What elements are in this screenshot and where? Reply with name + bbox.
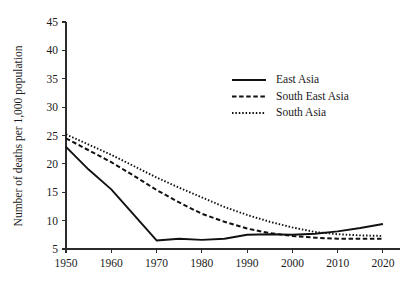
- y-tick-label: 10: [47, 215, 59, 227]
- y-tick-label: 5: [52, 243, 58, 255]
- x-tick-label: 1960: [100, 257, 123, 269]
- x-tick-label: 1980: [190, 257, 213, 269]
- y-tick-label: 40: [47, 44, 59, 56]
- y-tick-label: 30: [47, 101, 59, 113]
- y-tick-label: 35: [47, 73, 59, 85]
- x-tick-label: 1970: [145, 257, 168, 269]
- legend-label: South East Asia: [276, 90, 349, 102]
- chart-background: [0, 0, 403, 285]
- x-tick-label: 2000: [281, 257, 304, 269]
- y-tick-label: 20: [47, 158, 59, 170]
- x-tick-label: 1990: [236, 257, 259, 269]
- legend-label: East Asia: [276, 73, 319, 85]
- y-tick-label: 45: [47, 16, 59, 28]
- y-axis-title: Number of deaths per 1,000 population: [12, 45, 25, 226]
- x-tick-label: 1950: [55, 257, 78, 269]
- line-chart: Number of deaths per 1,000 population 51…: [0, 0, 403, 285]
- y-tick-label: 25: [47, 130, 59, 142]
- legend-label: South Asia: [276, 106, 326, 118]
- y-axis-title-group: Number of deaths per 1,000 population: [12, 45, 25, 226]
- y-tick-label: 15: [47, 186, 59, 198]
- x-tick-label: 2010: [326, 257, 349, 269]
- x-tick-label: 2020: [371, 257, 394, 269]
